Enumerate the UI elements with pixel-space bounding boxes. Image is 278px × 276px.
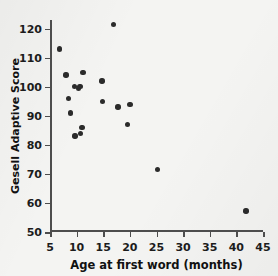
- y-tick: [45, 203, 50, 205]
- x-tick-label: 5: [46, 241, 54, 254]
- data-point: [127, 102, 132, 107]
- data-point: [72, 133, 77, 138]
- x-axis-title: Age at first word (months): [50, 258, 263, 272]
- scatter-plot-figure: 5060708090100110120 51015202530354045 Ge…: [0, 0, 278, 276]
- x-tick-label: 10: [69, 241, 84, 254]
- x-tick: [236, 232, 238, 237]
- data-point: [66, 96, 71, 101]
- x-tick: [263, 232, 265, 237]
- x-tick: [130, 232, 132, 237]
- x-tick: [103, 232, 105, 237]
- data-point: [68, 110, 73, 115]
- x-tick-label: 15: [96, 241, 111, 254]
- x-tick: [183, 232, 185, 237]
- x-tick-label: 25: [149, 241, 164, 254]
- data-point: [155, 167, 160, 172]
- data-point: [243, 208, 248, 213]
- y-tick: [45, 116, 50, 118]
- y-tick: [45, 87, 50, 89]
- x-tick: [77, 232, 79, 237]
- y-tick-label: 80: [27, 138, 42, 151]
- x-tick-label: 35: [202, 241, 217, 254]
- x-tick: [50, 232, 52, 237]
- plot-area: [50, 20, 263, 232]
- x-tick: [157, 232, 159, 237]
- data-point: [125, 122, 130, 127]
- data-point: [100, 99, 105, 104]
- y-tick-label: 70: [27, 167, 42, 180]
- x-tick-label: 30: [175, 241, 190, 254]
- y-tick: [45, 174, 50, 176]
- x-tick-label: 45: [255, 241, 270, 254]
- data-point: [99, 78, 104, 83]
- data-point: [79, 125, 84, 130]
- data-point: [111, 22, 116, 27]
- x-tick-label: 40: [229, 241, 244, 254]
- y-tick: [45, 145, 50, 147]
- x-tick-label: 20: [122, 241, 137, 254]
- data-point: [77, 84, 82, 89]
- data-point: [115, 104, 120, 109]
- y-tick-label: 60: [27, 196, 42, 209]
- y-tick-label: 50: [27, 226, 42, 239]
- data-point: [78, 131, 83, 136]
- data-point: [80, 70, 85, 75]
- x-tick: [210, 232, 212, 237]
- y-tick-label: 90: [27, 109, 42, 122]
- data-point: [57, 46, 62, 51]
- y-axis-line: [50, 20, 52, 232]
- y-tick: [45, 58, 50, 60]
- y-tick: [45, 29, 50, 31]
- data-point: [63, 72, 68, 77]
- y-axis-title: Gesell Adaptive Score: [9, 20, 23, 232]
